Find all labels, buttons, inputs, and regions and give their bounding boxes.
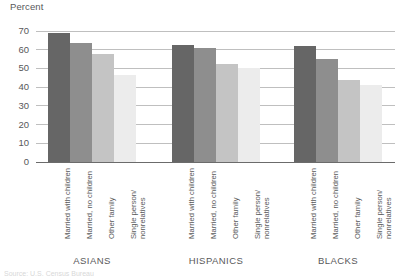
category-label: Married, no children (332, 159, 341, 239)
bar (48, 33, 70, 162)
source-note: Source: U.S. Census Bureau (4, 270, 94, 276)
bar-chart: Percent 706050403020100 Married with chi… (0, 0, 401, 276)
category-label: Married, no children (210, 159, 219, 239)
category-label: Other family (232, 159, 241, 239)
y-axis-tick-label: 50 (1, 64, 29, 74)
y-axis-tick-label: 70 (1, 26, 29, 36)
bar (238, 68, 260, 162)
bar (70, 43, 92, 162)
bars-layer (36, 28, 395, 162)
y-axis-tick-label: 10 (1, 139, 29, 149)
bar (360, 85, 382, 162)
y-axis-tick-label: 60 (1, 45, 29, 55)
plot-area: 706050403020100 (36, 28, 395, 162)
category-label: Married with children (310, 159, 319, 239)
y-axis-tick-label: 0 (1, 157, 29, 167)
bar (92, 54, 114, 162)
bar-group (172, 28, 260, 162)
bar-group (294, 28, 382, 162)
group-title: HISPANICS (172, 255, 260, 266)
y-axis-tick-label: 20 (1, 120, 29, 130)
bar (194, 48, 216, 162)
bar (338, 80, 360, 162)
y-axis-tick-label: 30 (1, 101, 29, 111)
category-labels: Married with childrenMarried, no childre… (36, 163, 395, 243)
bar (114, 75, 136, 162)
bar (316, 59, 338, 162)
bar (294, 46, 316, 162)
category-label: Single person/ nonrelatives (376, 159, 394, 239)
category-label: Married with children (188, 159, 197, 239)
category-label: Married with children (64, 159, 73, 239)
y-axis-tick-label: 40 (1, 82, 29, 92)
category-label: Other family (354, 159, 363, 239)
category-label: Single person/ nonrelatives (130, 159, 148, 239)
group-title: BLACKS (294, 255, 382, 266)
y-axis-title: Percent (10, 1, 43, 12)
category-label: Other family (108, 159, 117, 239)
bar-group (48, 28, 136, 162)
category-label: Single person/ nonrelatives (254, 159, 272, 239)
bar (172, 45, 194, 162)
group-titles: ASIANSHISPANICSBLACKS (36, 255, 395, 269)
category-label: Married, no children (86, 159, 95, 239)
group-title: ASIANS (48, 255, 136, 266)
bar (216, 64, 238, 162)
